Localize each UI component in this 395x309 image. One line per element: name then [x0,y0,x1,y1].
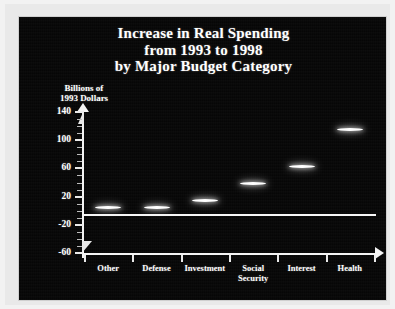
x-tick [374,255,376,262]
y-tick-minor [77,147,82,148]
y-tick-minor [77,204,82,205]
x-category-label: Defense [132,263,180,273]
chart-title: Increase in Real Spending from 1993 to 1… [19,25,387,75]
x-category-label-line: Investment [181,263,229,273]
x-tick [181,255,183,262]
x-category-label-line: Defense [132,263,180,273]
y-tick-minor [77,218,82,219]
y-tick-label: -20 [31,219,71,229]
screenshot-frame: Increase in Real Spending from 1993 to 1… [0,0,395,309]
x-category-label-line: Health [326,263,374,273]
x-category-label-line: Interest [277,263,325,273]
y-tick-minor [77,190,82,191]
y-tick-label: 20 [31,191,71,201]
y-tick-label: 100 [31,134,71,144]
x-category-label-line: Other [84,263,132,273]
y-tick-label: 140 [31,106,71,116]
chart-title-line-2: from 1993 to 1998 [19,42,387,59]
y-tick [75,252,83,254]
x-tick [84,255,86,262]
chart-title-line-3: by Major Budget Category [19,58,387,75]
y-tick-minor [77,154,82,155]
y-axis-label-line-1: Billions of [39,83,129,93]
x-tick [326,255,328,262]
y-tick-minor [77,126,82,127]
y-tick-minor [77,161,82,162]
zero-reference-line [83,214,376,216]
y-axis-label-line-2: 1993 Dollars [39,93,129,103]
chart-title-line-1: Increase in Real Spending [19,25,387,42]
x-axis-arrow-icon [375,247,384,259]
y-tick-label: -60 [31,247,71,257]
y-tick-minor [77,211,82,212]
data-point-marker [289,165,315,168]
x-category-label-line: Security [229,273,277,283]
y-tick-minor [77,175,82,176]
x-axis-wedge [82,241,92,253]
y-tick [75,196,83,198]
x-category-label: Interest [277,263,325,273]
x-category-label: Other [84,263,132,273]
y-axis-label: Billions of 1993 Dollars [39,83,129,103]
data-point-marker [337,128,363,131]
y-tick [75,139,83,141]
y-tick-minor [77,133,82,134]
y-axis [82,110,84,258]
x-category-label: SocialSecurity [229,263,277,283]
x-category-label: Health [326,263,374,273]
data-point-marker [240,182,266,185]
x-category-label: Investment [181,263,229,273]
x-tick [277,255,279,262]
data-point-marker [192,199,218,202]
x-tick [229,255,231,262]
y-tick-minor [77,232,82,233]
y-tick-minor [77,119,82,120]
data-point-marker [144,206,170,209]
y-tick-label: 60 [31,162,71,172]
figure-mat: Increase in Real Spending from 1993 to 1… [5,4,390,305]
y-tick-minor [77,246,82,247]
y-tick [75,167,83,169]
y-tick-minor [77,239,82,240]
chart-plate: Increase in Real Spending from 1993 to 1… [18,16,387,301]
y-tick [75,224,83,226]
x-tick [132,255,134,262]
y-tick-minor [77,183,82,184]
data-point-marker [95,206,121,209]
y-tick [75,111,83,113]
x-category-label-line: Social [229,263,277,273]
